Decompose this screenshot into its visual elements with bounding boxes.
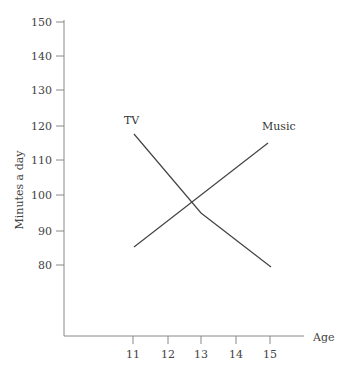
y-ticks: [56, 22, 64, 265]
x-tick-label: 13: [194, 348, 208, 361]
x-tick-label: 12: [161, 348, 175, 361]
tv-label: TV: [124, 114, 140, 127]
y-tick-label: 120: [31, 120, 52, 133]
y-tick-labels: 150 140 130 120 110 100 90 80: [31, 16, 52, 272]
y-tick-label: 90: [38, 225, 52, 238]
tv-line: [134, 134, 271, 267]
x-tick-label: 14: [229, 348, 243, 361]
music-label: Music: [262, 120, 296, 133]
y-tick-label: 130: [31, 84, 52, 97]
line-chart: 150 140 130 120 110 100 90 80 11 12 13 1…: [0, 0, 346, 373]
x-tick-label: 15: [263, 348, 277, 361]
x-tick-label: 11: [126, 348, 140, 361]
x-tick-labels: 11 12 13 14 15: [126, 348, 277, 361]
y-tick-label: 110: [31, 154, 52, 167]
y-tick-label: 100: [31, 189, 52, 202]
y-axis-title: Minutes a day: [13, 150, 26, 230]
y-tick-label: 140: [31, 50, 52, 63]
y-tick-label: 150: [31, 16, 52, 29]
x-ticks: [133, 336, 270, 344]
y-tick-label: 80: [38, 259, 52, 272]
x-axis-title: Age: [312, 331, 335, 344]
